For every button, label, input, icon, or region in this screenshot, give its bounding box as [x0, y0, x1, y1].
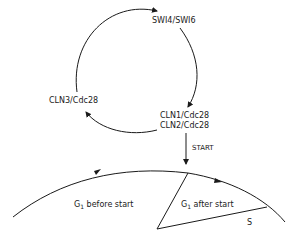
- g1-after-subscript: 1: [187, 203, 191, 210]
- cln2-cdc28-label: CLN2/Cdc28: [160, 121, 209, 131]
- arc-arrowhead-right: [214, 178, 222, 183]
- arrow-cln12-to-cln3: [86, 112, 157, 133]
- swi4-swi6-label: SWI4/SWI6: [152, 16, 196, 26]
- arrow-cln3-to-swi4: [76, 9, 157, 92]
- arrow-swi4-to-cln12: [180, 28, 197, 107]
- s-phase-label: S: [247, 218, 252, 228]
- g1-before-subscript: 1: [80, 203, 84, 210]
- g1-after-suffix: after start: [194, 200, 234, 209]
- cln1-cdc28-label: CLN1/Cdc28: [160, 111, 209, 121]
- cycle-diagram-canvas: [0, 0, 289, 239]
- g1-before-suffix: before start: [87, 200, 134, 209]
- arc-arrowhead-left: [94, 169, 101, 175]
- g1-before-start-label: G1 before start: [74, 200, 134, 210]
- start-label: START: [192, 143, 214, 153]
- cln3-cdc28-label: CLN3/Cdc28: [49, 96, 98, 106]
- cell-cycle-arc: [13, 171, 285, 222]
- g1-after-start-label: G1 after start: [181, 200, 234, 210]
